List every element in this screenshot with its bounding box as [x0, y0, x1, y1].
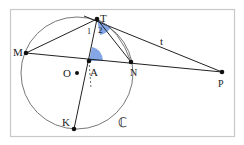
label-a: A — [90, 66, 98, 78]
label-circle-c: ℂ — [118, 115, 127, 130]
label-t: T — [100, 12, 107, 24]
point-k — [72, 127, 77, 132]
point-m — [24, 51, 29, 56]
label-m: M — [13, 46, 23, 58]
point-n — [129, 60, 134, 65]
label-p: P — [218, 78, 224, 89]
point-o — [75, 71, 79, 75]
label-n: N — [130, 67, 137, 78]
geometry-diagram: T M A N P O K t ℂ 1 2 — [0, 0, 244, 145]
label-angle-1: 1 — [87, 27, 91, 36]
label-tangent-t: t — [160, 35, 163, 47]
point-a — [87, 59, 92, 64]
point-t — [95, 17, 100, 22]
label-k: K — [62, 116, 70, 128]
label-o: O — [63, 67, 71, 79]
point-p — [220, 70, 225, 75]
label-angle-2: 2 — [98, 25, 103, 35]
